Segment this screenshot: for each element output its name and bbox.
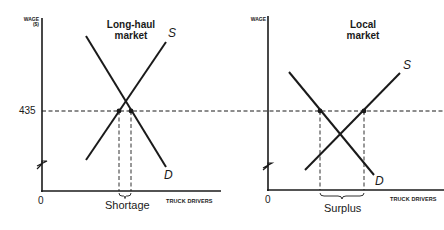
- long-haul-panel: [37, 18, 221, 199]
- right-y-axis-label: WAGE: [244, 17, 266, 22]
- left-title-line1: Long-haul: [106, 19, 156, 30]
- left-supply-curve: [86, 42, 166, 160]
- shortage-label: Shortage: [105, 199, 150, 211]
- left-title-line2: market: [106, 30, 156, 41]
- right-origin-label: 0: [265, 194, 271, 205]
- long-haul-market-title: Long-haul market: [106, 19, 156, 41]
- left-y-axis-label-line2: ($): [17, 22, 39, 27]
- local-panel: [263, 16, 444, 199]
- right-supply-curve: [305, 73, 400, 170]
- left-x-axis-label: TRUCK DRIVERS: [166, 198, 213, 204]
- left-supply-point: [117, 109, 122, 114]
- right-demand-label: D: [375, 174, 384, 188]
- right-x-axis-label: TRUCK DRIVERS: [390, 196, 437, 202]
- right-title-line2: market: [343, 30, 383, 41]
- surplus-label: Surplus: [324, 202, 361, 214]
- right-demand-point: [318, 109, 323, 114]
- right-supply-point: [362, 109, 367, 114]
- left-supply-label: S: [168, 26, 176, 40]
- surplus-brace: [320, 193, 364, 199]
- wage-tick-435: 435: [19, 105, 36, 116]
- right-demand-curve: [289, 72, 374, 175]
- left-origin-label: 0: [38, 195, 44, 206]
- local-market-title: Local market: [343, 19, 383, 41]
- left-demand-label: D: [164, 168, 173, 182]
- shortage-brace: [119, 193, 131, 199]
- right-title-line1: Local: [343, 19, 383, 30]
- left-y-axis-label: WAGE ($): [17, 17, 39, 27]
- left-demand-point: [129, 109, 134, 114]
- right-supply-label: S: [403, 58, 411, 72]
